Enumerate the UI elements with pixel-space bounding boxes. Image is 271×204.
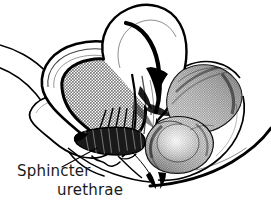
anatomy-illustration: Sphincter urethrae bbox=[0, 0, 271, 204]
anatomical-figure: Sphincter urethrae bbox=[0, 0, 271, 204]
sphincter-urethrae-label-line2: urethrae bbox=[57, 181, 123, 199]
sphincter-urethrae-label-line1: Sphincter bbox=[17, 162, 91, 180]
